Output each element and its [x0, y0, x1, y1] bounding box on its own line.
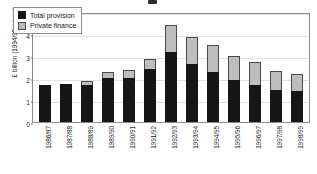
- chart-legend: Total provision Private finance: [13, 7, 82, 34]
- legend-swatch-private-finance: [18, 22, 26, 30]
- bar-group: [249, 62, 261, 122]
- bar-group: [144, 59, 156, 122]
- x-label-slot: 1996/97: [249, 124, 261, 172]
- x-tick-label: 1996/97: [255, 126, 262, 149]
- x-label-slot: 1990/91: [123, 124, 135, 172]
- bar-group: [270, 71, 282, 122]
- bar-segment-private-finance: [249, 62, 261, 85]
- x-label-slot: 1991/92: [144, 124, 156, 172]
- bar-group: [186, 37, 198, 122]
- x-tick-label: 1994/95: [213, 126, 220, 149]
- x-label-slot: 1995/96: [228, 124, 240, 172]
- bar-segment-total-provision: [249, 85, 261, 122]
- x-label-slot: 1989/90: [102, 124, 114, 172]
- x-tick-label: 1993/94: [192, 126, 199, 149]
- x-label-slot: 1992/93: [165, 124, 177, 172]
- x-tick-label: 1986/87: [45, 126, 52, 149]
- bar-group: [39, 85, 51, 122]
- legend-swatch-total-provision: [18, 11, 26, 19]
- bar-segment-total-provision: [144, 69, 156, 122]
- x-label-slot: 1993/94: [186, 124, 198, 172]
- bar-group: [165, 25, 177, 122]
- bar-chart: £ billion (1994/95 prices) 012345 1986/8…: [0, 0, 317, 174]
- y-tick-label: 4: [26, 33, 30, 40]
- bar-segment-total-provision: [291, 91, 303, 122]
- x-tick-label: 1998/99: [297, 126, 304, 149]
- bar-segment-total-provision: [165, 52, 177, 122]
- x-label-slot: 1997/98: [270, 124, 282, 172]
- bar-group: [291, 74, 303, 122]
- bar-segment-private-finance: [123, 70, 135, 77]
- legend-label-total-provision: Total provision: [30, 12, 75, 19]
- bar-segment-total-provision: [39, 85, 51, 122]
- bar-segment-private-finance: [291, 74, 303, 91]
- legend-item-total-provision: Total provision: [18, 11, 76, 19]
- x-tick-label: 1988/89: [87, 126, 94, 149]
- bar-segment-private-finance: [144, 59, 156, 69]
- bar-group: [228, 56, 240, 122]
- x-axis-labels: 1986/871987/881988/891989/901990/911991/…: [32, 124, 310, 172]
- bar-segment-total-provision: [102, 78, 114, 122]
- x-label-slot: 1998/99: [291, 124, 303, 172]
- x-tick-label: 1990/91: [129, 126, 136, 149]
- y-tick-label: 0: [26, 121, 30, 128]
- clipped-artifact: [148, 0, 157, 4]
- y-tick-label: 1: [26, 99, 30, 106]
- x-label-slot: 1994/95: [207, 124, 219, 172]
- bar-segment-private-finance: [228, 56, 240, 81]
- bar-segment-total-provision: [228, 80, 240, 122]
- bar-segment-private-finance: [186, 37, 198, 65]
- bar-segment-private-finance: [165, 25, 177, 51]
- bar-segment-private-finance: [207, 45, 219, 71]
- x-tick-label: 1989/90: [108, 126, 115, 149]
- y-tick-label: 3: [26, 55, 30, 62]
- bar-segment-total-provision: [270, 90, 282, 122]
- x-tick-label: 1992/93: [171, 126, 178, 149]
- x-tick-label: 1991/92: [150, 126, 157, 149]
- legend-item-private-finance: Private finance: [18, 22, 76, 30]
- bar-segment-total-provision: [186, 64, 198, 122]
- bar-segment-private-finance: [270, 71, 282, 90]
- x-label-slot: 1986/87: [39, 124, 51, 172]
- x-label-slot: 1988/89: [81, 124, 93, 172]
- bar-group: [123, 70, 135, 122]
- legend-label-private-finance: Private finance: [30, 22, 76, 29]
- bar-group: [60, 84, 72, 123]
- bar-group: [81, 81, 93, 122]
- bar-segment-total-provision: [60, 84, 72, 123]
- bar-segment-total-provision: [207, 72, 219, 122]
- bar-group: [102, 72, 114, 122]
- y-tick-label: 2: [26, 77, 30, 84]
- bar-segment-total-provision: [123, 78, 135, 122]
- x-tick-label: 1997/98: [276, 126, 283, 149]
- x-label-slot: 1987/88: [60, 124, 72, 172]
- x-tick-label: 1995/96: [234, 126, 241, 149]
- x-tick-label: 1987/88: [66, 126, 73, 149]
- bar-segment-total-provision: [81, 85, 93, 122]
- bar-group: [207, 45, 219, 122]
